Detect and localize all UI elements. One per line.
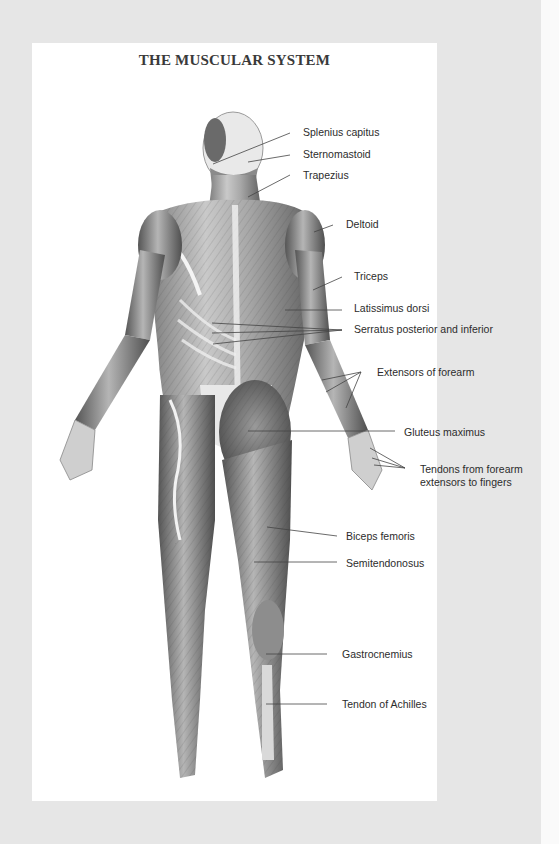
left-leg [158, 395, 215, 778]
label-serratus: Serratus posterior and inferior [354, 323, 493, 336]
label-tendons-line1: Tendons from forearm [420, 463, 523, 476]
right-leg [222, 440, 292, 778]
label-biceps-femoris: Biceps femoris [346, 530, 415, 543]
label-deltoid: Deltoid [346, 218, 379, 231]
label-latissimus-dorsi: Latissimus dorsi [354, 302, 429, 315]
label-tendon-achilles: Tendon of Achilles [342, 698, 427, 711]
label-splenius-capitus: Splenius capitus [303, 126, 379, 139]
label-trapezius: Trapezius [303, 169, 349, 182]
label-extensors-forearm: Extensors of forearm [377, 366, 474, 379]
right-arm [295, 250, 382, 490]
label-sternomastoid: Sternomastoid [303, 148, 371, 161]
muscular-figure-illustration [0, 0, 559, 844]
label-tendons-line2: extensors to fingers [420, 476, 523, 489]
label-semitendonosus: Semitendonosus [346, 557, 424, 570]
label-gastrocnemius: Gastrocnemius [342, 648, 413, 661]
label-tendons-forearm: Tendons from forearm extensors to finger… [420, 463, 523, 489]
label-gluteus-maximus: Gluteus maximus [404, 426, 485, 439]
label-triceps: Triceps [354, 270, 388, 283]
left-arm [60, 250, 165, 480]
